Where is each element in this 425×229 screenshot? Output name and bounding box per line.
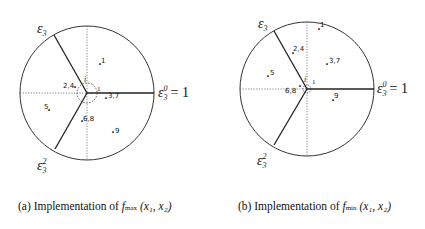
point-label-6-8: 6,8 [83,115,94,123]
label-epsilon3: ε3 [258,16,268,33]
point-label-3-7: 3,7 [108,92,119,100]
caption-b: (b) Implementation of fmin (x₁, x₂) [238,200,391,212]
caption-b-args: (x₁, x₂) [359,200,391,212]
label-epsilon3: ε3 [37,21,47,38]
caption-a-sub: max [125,204,137,212]
caption-a: (a) Implementation of fmax (x₁, x₂) [18,200,172,212]
label-epsilon3-0: ε30= 1 [377,80,408,98]
origin-i-label: i [304,75,306,84]
origin-1-label: 1 [312,78,316,86]
point-label-1: 1 [101,57,105,65]
diagram-canvas: ε3 ε30= 1 ε32 i 1 · 1 · 2,4 · 3,7 · 5 · … [0,0,425,229]
label-epsilon3-2: ε32 [37,157,47,175]
epsilon2-ray [274,89,307,145]
caption-a-prefix: (a) Implementation of [18,200,122,212]
point-label-3-7: 3,7 [329,57,340,65]
point-label-1: 1 [320,21,324,29]
point-label-5: 5 [270,69,274,77]
caption-b-sub: min [346,204,357,212]
point-group: · 1 · 2,4 · 3,7 · 5 · 6,8 · 9 [44,56,119,140]
panel-a-diagram: ε3 ε30= 1 ε32 i 1 · 1 · 2,4 · 3,7 · 5 · … [20,21,189,175]
point-label-2-4: 2,4 [63,82,75,90]
panel-b-diagram: ε3 ε30= 1 ε32 i 1 · 1 · 2,4 · 3,7 · 5 · … [240,16,408,170]
point-label-2-4: 2,4 [293,45,305,53]
caption-a-args: (x₁, x₂) [140,200,172,212]
point-label-9: 9 [115,127,119,135]
caption-b-prefix: (b) Implementation of [238,200,342,212]
label-epsilon3-2: ε32 [257,152,267,170]
svg-text:·: · [298,78,302,94]
point-label-6-8: 6,8 [285,87,296,95]
label-epsilon3-0: ε30= 1 [158,84,189,102]
origin-i-label: i [84,75,86,84]
point-label-5: 5 [44,103,48,111]
origin-1-label: 1 [97,85,101,93]
point-label-9: 9 [334,92,338,100]
